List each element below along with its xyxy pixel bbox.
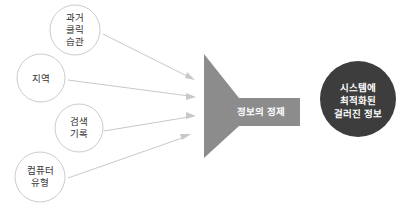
arrow-line <box>104 117 189 131</box>
output-node-filtered-information[interactable]: 시스템에 최적화된 걸러진 정보 <box>320 61 396 137</box>
arrow-head-icon <box>185 72 195 80</box>
arrow-search-history <box>104 112 196 131</box>
arrow-head-icon <box>180 134 191 140</box>
output-node-label: 시스템에 <box>340 82 376 93</box>
output-node-label: 최적화된 <box>340 95 376 106</box>
funnel-filter-shape[interactable]: 정보의 정제 <box>204 54 300 158</box>
funnel-flow-diagram: 과거 클릭 습관 지역 검색 기록 컴퓨터 유형 정보의 정제 <box>0 0 408 215</box>
input-node-label: 기록 <box>70 128 88 139</box>
funnel-label: 정보의 정제 <box>237 106 285 117</box>
input-node-label: 과거 <box>66 12 84 23</box>
input-node-label: 컴퓨터 <box>27 165 54 176</box>
arrow-past-click-habits <box>103 34 195 80</box>
input-node-label: 습관 <box>66 36 84 47</box>
input-node-label: 클릭 <box>66 24 84 35</box>
arrow-head-icon <box>186 112 196 119</box>
input-node-label: 지역 <box>32 73 50 84</box>
arrow-line <box>68 80 189 96</box>
diagram-canvas: 과거 클릭 습관 지역 검색 기록 컴퓨터 유형 정보의 정제 <box>0 0 408 215</box>
output-node-label: 걸러진 정보 <box>334 108 382 119</box>
arrow-line <box>103 34 189 77</box>
arrow-head-icon <box>186 93 196 100</box>
input-node-label: 검색 <box>70 116 88 127</box>
arrow-region <box>68 80 196 100</box>
input-node-past-click-habits[interactable]: 과거 클릭 습관 <box>50 5 100 55</box>
input-node-region[interactable]: 지역 <box>17 54 65 102</box>
input-node-search-history[interactable]: 검색 기록 <box>55 104 103 152</box>
input-node-label: 유형 <box>31 177 49 188</box>
input-node-computer-type[interactable]: 컴퓨터 유형 <box>15 152 65 202</box>
